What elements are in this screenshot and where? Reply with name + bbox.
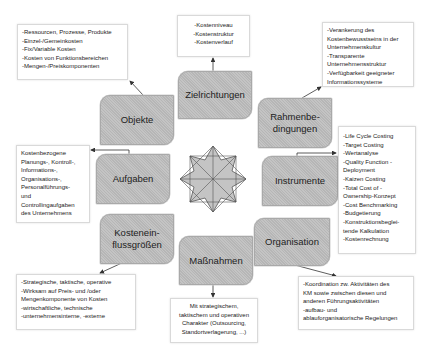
note-line: -Einzel-/Gemeinkosten xyxy=(22,37,123,46)
node-label: Organisation xyxy=(265,236,319,248)
node-massnahmen: Maßnahmen xyxy=(179,236,253,285)
note-line: -Koordination zw. Aktivitäten des xyxy=(303,280,409,289)
note-line: -Kostenstruktur xyxy=(182,30,245,39)
node-organisation: Organisation xyxy=(254,218,330,266)
note-line: -Budgetierung xyxy=(343,209,411,218)
note-line: -Ressourcen, Prozesse, Produkte xyxy=(22,28,123,37)
node-label-line: flussgrößen xyxy=(112,239,162,251)
note-line: Standortverlagerung, ...) xyxy=(175,328,253,337)
note-line: tende Kalkulation xyxy=(343,227,411,236)
note-zielrichtungen: -Kostenniveau -Kostenstruktur -Kostenver… xyxy=(177,15,250,57)
note-line: Charakter (Outsourcing, xyxy=(175,319,253,328)
note-objekte: -Ressourcen, Prozesse, Produkte -Einzel-… xyxy=(17,24,128,80)
note-organisation: -Koordination zw. Aktivitäten des KM sow… xyxy=(298,276,414,330)
node-label: Zielrichtungen xyxy=(185,89,245,101)
star-icon xyxy=(180,146,246,212)
node-instrumente: Instrumente xyxy=(262,156,338,206)
node-zielrichtungen: Zielrichtungen xyxy=(178,71,252,119)
note-line: Unternehmenskultur xyxy=(327,43,409,52)
note-line: Personalführungs- xyxy=(21,183,85,192)
note-kosteneinflussgroessen: -Strategische, taktische, operative -Wir… xyxy=(16,274,136,330)
node-objekte: Objekte xyxy=(100,95,174,145)
note-line: Mit strategischem, xyxy=(175,302,253,311)
note-line: des Unternehmens xyxy=(21,209,85,218)
note-instrumente: -Life Cycle Costing -Target Costing -Wer… xyxy=(338,126,416,254)
note-line: -Wirksam auf Preis- und /oder xyxy=(21,287,131,296)
note-line: -Kostenrechnung xyxy=(343,235,411,244)
note-line: Kostenbezogene xyxy=(21,149,85,158)
note-line: -aufbau- und xyxy=(303,306,409,315)
note-line: -wirtschaftliche, technische xyxy=(21,304,131,313)
note-line: -Konstruktionsbeglei- xyxy=(343,218,411,227)
note-line: Planungs-, Kontroll-, xyxy=(21,158,85,167)
note-line: Ownership-Konzept xyxy=(343,192,411,201)
node-label-line: Rahmenbe- xyxy=(270,111,320,123)
note-line: und xyxy=(21,192,85,201)
note-aufgaben: Kostenbezogene Planungs-, Kontroll-, Inf… xyxy=(16,145,90,223)
note-line: -Cost Benchmarking xyxy=(343,201,411,210)
note-line: ablauforganisatorische Regelungen xyxy=(303,314,409,323)
note-line: -Mengen-/Preiskomponenten xyxy=(22,62,123,71)
note-line: -Kaizen Costing xyxy=(343,175,411,184)
node-label-line: Kostenein- xyxy=(114,227,159,239)
node-label: Objekte xyxy=(121,114,154,126)
note-line: -Strategische, taktische, operative xyxy=(21,278,131,287)
note-line: Mengenkomponente von Kosten xyxy=(21,295,131,304)
note-massnahmen: Mit strategischem, taktischem und operat… xyxy=(170,298,258,343)
note-line: Kostenbewusstseins in der xyxy=(327,35,409,44)
note-line: KM sowie zwischen diesen und xyxy=(303,289,409,298)
note-line: Unternehmensstruktur xyxy=(327,60,409,69)
note-line: -Kostenverlauf xyxy=(182,38,245,47)
note-line: -Life Cycle Costing xyxy=(343,132,411,141)
note-line: -Total Cost of - xyxy=(343,184,411,193)
node-rahmenbedingungen: Rahmenbe- dingungen xyxy=(258,98,332,148)
note-line: -Kostenniveau xyxy=(182,21,245,30)
note-line: -Verankerung des xyxy=(327,26,409,35)
arrow-rahmenbedingungen xyxy=(302,87,321,98)
note-line: Organisations-, xyxy=(21,175,85,184)
note-line: -Verfügbarkeit geeigneter xyxy=(327,69,409,78)
note-line: Deployment xyxy=(343,166,411,175)
arrow-objekte xyxy=(130,81,143,95)
note-line: Informations-, xyxy=(21,166,85,175)
note-line: -Transparente xyxy=(327,52,409,61)
node-label: Maßnahmen xyxy=(189,255,242,267)
node-kosteneinflussgroessen: Kostenein- flussgrößen xyxy=(100,214,174,264)
note-line: Informationssysteme xyxy=(327,78,409,87)
node-aufgaben: Aufgaben xyxy=(96,154,170,204)
note-line: -Wertanalyse xyxy=(343,149,411,158)
note-rahmenbedingungen: -Verankerung des Kostenbewusstseins in d… xyxy=(322,22,414,87)
note-line: Controllingaufgaben xyxy=(21,201,85,210)
node-label: Instrumente xyxy=(275,175,325,187)
note-line: -Kosten von Funktionsbereichen xyxy=(22,54,123,63)
note-line: -Target Costing xyxy=(343,141,411,150)
note-line: anderen Führungsaktivitäten xyxy=(303,297,409,306)
node-label-line: dingungen xyxy=(273,123,317,135)
note-line: -unternehmensinterne, -externe xyxy=(21,312,131,321)
note-line: -Quality Function - xyxy=(343,158,411,167)
node-label: Aufgaben xyxy=(113,173,154,185)
note-line: taktischem und operativen xyxy=(175,311,253,320)
note-line: -Fix/Variable Kosten xyxy=(22,45,123,54)
